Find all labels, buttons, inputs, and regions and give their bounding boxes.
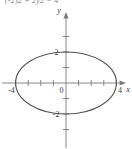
x-label-neg4: -4 <box>8 86 15 95</box>
ellipse-figure: (-2)2 + 2y2 = 4 -4 4 0 2 -2 <box>0 0 132 149</box>
x-axis-label: x <box>125 85 130 94</box>
origin-label: 0 <box>60 86 64 95</box>
coordinate-plot: -4 4 0 2 -2 y x <box>0 0 132 149</box>
y-label-neg2: -2 <box>53 110 60 119</box>
x-axis-arrowhead <box>120 80 126 85</box>
y-axis-arrowhead <box>63 12 68 18</box>
y-axis-label: y <box>56 6 61 15</box>
y-label-pos2: 2 <box>55 48 59 57</box>
x-label-pos4: 4 <box>118 86 122 95</box>
